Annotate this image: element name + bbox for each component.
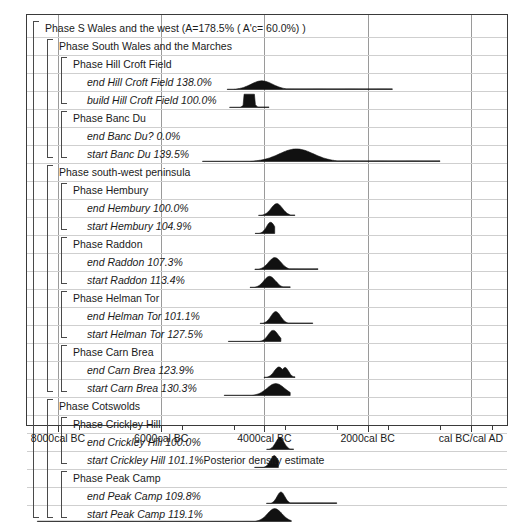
- chart-row-end-raddon[interactable]: end Raddon 107.3%: [27, 253, 507, 271]
- axis-tick-label-4: cal BC/cal AD: [439, 432, 503, 444]
- parameter-label: start Banc Du 139.5%: [87, 145, 189, 163]
- parameter-label: end Peak Camp 109.8%: [87, 487, 201, 505]
- chart-row-phase-banc-du[interactable]: Phase Banc Du: [27, 109, 507, 127]
- parameter-label: start Peak Camp 119.1%: [87, 505, 203, 523]
- chart-row-start-banc-du[interactable]: start Banc Du 139.5%: [27, 145, 507, 163]
- chart-row-start-carn-brea[interactable]: start Carn Brea 130.3%: [27, 379, 507, 397]
- chart-row-end-helman-tor[interactable]: end Helman Tor 101.1%: [27, 307, 507, 325]
- chart-row-start-helman-tor[interactable]: start Helman Tor 127.5%: [27, 325, 507, 343]
- axis-tick-minor: [234, 426, 235, 430]
- phase-label: Phase south-west peninsula: [59, 163, 190, 181]
- phase-label: Phase South Wales and the Marches: [59, 37, 232, 55]
- chart-row-end-hill-croft-field[interactable]: end Hill Croft Field 138.0%: [27, 73, 507, 91]
- phase-label: Phase S Wales and the west (A=178.5% ( A…: [45, 19, 306, 37]
- chart-row-phase-s-wales[interactable]: Phase S Wales and the west (A=178.5% ( A…: [27, 19, 507, 37]
- phase-label: Phase Carn Brea: [73, 343, 154, 361]
- axis-tick-label-1: 6000cal BC: [134, 432, 188, 444]
- parameter-label: start Hembury 104.9%: [87, 217, 191, 235]
- x-axis-caption: Posterior density estimate: [0, 454, 528, 466]
- chart-row-phase-cotswolds[interactable]: Phase Cotswolds: [27, 397, 507, 415]
- phase-label: Phase Crickley Hill: [73, 415, 161, 433]
- phase-label: Phase Helman Tor: [73, 289, 159, 307]
- axis-tick-minor: [285, 426, 286, 430]
- chart-row-phase-carn-brea[interactable]: Phase Carn Brea: [27, 343, 507, 361]
- phase-label: Phase Peak Camp: [73, 469, 161, 487]
- chart-row-end-carn-brea[interactable]: end Carn Brea 123.9%: [27, 361, 507, 379]
- chart-row-end-hembury[interactable]: end Hembury 100.0%: [27, 199, 507, 217]
- parameter-label: end Raddon 107.3%: [87, 253, 183, 271]
- phase-label: Phase Cotswolds: [59, 397, 140, 415]
- parameter-label: start Carn Brea 130.3%: [87, 379, 197, 397]
- phase-label: Phase Hill Croft Field: [73, 55, 172, 73]
- axis-tick-label-3: 2000cal BC: [340, 432, 394, 444]
- chart-row-phase-hill-croft-field[interactable]: Phase Hill Croft Field: [27, 55, 507, 73]
- chart-row-start-raddon[interactable]: start Raddon 113.4%: [27, 271, 507, 289]
- chart-row-phase-hembury[interactable]: Phase Hembury: [27, 181, 507, 199]
- parameter-label: end Helman Tor 101.1%: [87, 307, 200, 325]
- chart-row-end-banc-du[interactable]: end Banc Du? 0.0%: [27, 127, 507, 145]
- chart-row-phase-raddon[interactable]: Phase Raddon: [27, 235, 507, 253]
- chart-row-phase-south-wales[interactable]: Phase South Wales and the Marches: [27, 37, 507, 55]
- axis-tick-minor: [388, 426, 389, 430]
- axis-tick-minor: [440, 426, 441, 430]
- parameter-label: end Hill Croft Field 138.0%: [87, 73, 212, 91]
- axis-tick-minor: [337, 426, 338, 430]
- plot-frame: Phase S Wales and the west (A=178.5% ( A…: [26, 14, 508, 426]
- chart-row-phase-sw-peninsula[interactable]: Phase south-west peninsula: [27, 163, 507, 181]
- phase-label: Phase Banc Du: [73, 109, 146, 127]
- chart-row-phase-peak-camp[interactable]: Phase Peak Camp: [27, 469, 507, 487]
- chart-row-phase-crickley-hill[interactable]: Phase Crickley Hill: [27, 415, 507, 433]
- phase-label: Phase Hembury: [73, 181, 148, 199]
- axis-tick-minor: [130, 426, 131, 430]
- parameter-label: end Banc Du? 0.0%: [87, 127, 180, 145]
- parameter-label: end Hembury 100.0%: [87, 199, 189, 217]
- phase-label: Phase Raddon: [73, 235, 142, 253]
- parameter-label: end Carn Brea 123.9%: [87, 361, 194, 379]
- axis-tick-label-2: 4000cal BC: [237, 432, 291, 444]
- parameter-label: start Helman Tor 127.5%: [87, 325, 203, 343]
- chart-row-end-peak-camp[interactable]: end Peak Camp 109.8%: [27, 487, 507, 505]
- axis-tick-minor: [79, 426, 80, 430]
- chart-row-start-peak-camp[interactable]: start Peak Camp 119.1%: [27, 505, 507, 523]
- axis-tick-minor: [182, 426, 183, 430]
- axis-tick-minor: [492, 426, 493, 430]
- chart-row-start-hembury[interactable]: start Hembury 104.9%: [27, 217, 507, 235]
- chart-row-build-hill-croft-field[interactable]: build Hill Croft Field 100.0%: [27, 91, 507, 109]
- parameter-label: start Raddon 113.4%: [87, 271, 185, 289]
- chart-row-phase-helman-tor[interactable]: Phase Helman Tor: [27, 289, 507, 307]
- parameter-label: build Hill Croft Field 100.0%: [87, 91, 217, 109]
- axis-tick-label-0: 8000cal BC: [31, 432, 85, 444]
